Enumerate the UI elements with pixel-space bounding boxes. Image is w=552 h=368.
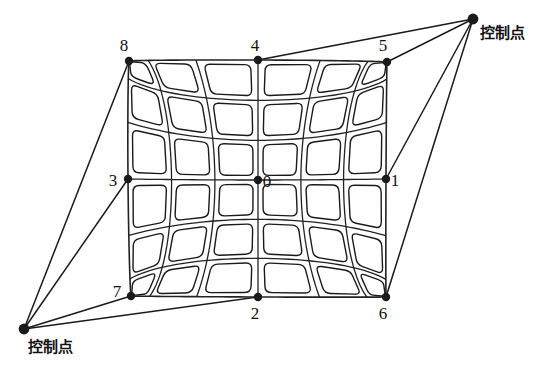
- control-point-label: 控制点: [28, 338, 73, 356]
- mesh-cell: [133, 185, 166, 227]
- mesh-cell: [349, 131, 382, 174]
- node-label-0: 0: [263, 172, 272, 191]
- mesh-cell: [349, 185, 382, 227]
- mesh-cell: [219, 144, 253, 176]
- mesh-cell: [309, 227, 347, 262]
- mesh-cell: [175, 139, 210, 175]
- mesh-cell: [264, 65, 311, 96]
- mesh-cell: [205, 64, 252, 95]
- mesh-cell: [263, 144, 297, 176]
- mesh-cell: [219, 185, 253, 216]
- mesh-cell: [169, 227, 207, 261]
- node-dot-0[interactable]: [254, 176, 262, 184]
- mesh-cell: [168, 97, 206, 132]
- node-dot-1[interactable]: [382, 175, 390, 183]
- mesh-cell: [133, 131, 167, 174]
- mesh-cell: [214, 103, 253, 135]
- mesh-cell: [175, 185, 210, 220]
- node-dot-2[interactable]: [254, 293, 262, 301]
- node-dot-3[interactable]: [124, 175, 132, 183]
- node-dot-6[interactable]: [382, 293, 390, 301]
- mesh-cell: [306, 185, 340, 220]
- node-label-6: 6: [379, 304, 388, 323]
- node-label-8: 8: [120, 36, 129, 55]
- mesh-cell: [306, 139, 340, 175]
- control-point-dot[interactable]: [19, 324, 30, 335]
- node-label-3: 3: [109, 171, 118, 190]
- node-label-4: 4: [251, 36, 260, 55]
- mesh-cell: [264, 263, 310, 293]
- mesh-cell: [263, 103, 302, 135]
- mesh-cell: [263, 224, 301, 255]
- mesh-control-point-diagram: 012345678 控制点控制点: [0, 0, 552, 368]
- mesh-cell: [214, 224, 252, 255]
- node-label-7: 7: [113, 282, 122, 301]
- control-point-label: 控制点: [480, 24, 525, 42]
- node-dot-4[interactable]: [254, 56, 262, 64]
- figure-canvas: 012345678 控制点控制点: [0, 0, 552, 368]
- node-dot-7[interactable]: [127, 292, 135, 300]
- node-dot-8[interactable]: [125, 57, 133, 65]
- node-label-2: 2: [251, 304, 260, 323]
- node-dot-5[interactable]: [383, 58, 391, 66]
- node-label-5: 5: [379, 36, 388, 55]
- control-point-dot[interactable]: [468, 14, 479, 25]
- mesh-cell: [206, 263, 252, 293]
- node-label-1: 1: [391, 171, 400, 190]
